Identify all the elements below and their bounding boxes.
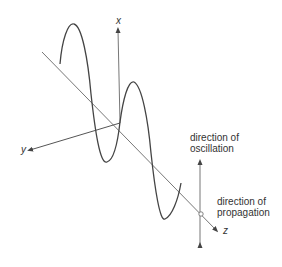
x-axis-label: x <box>116 15 121 26</box>
z-axis-label: z <box>223 225 228 236</box>
propagation-annotation: direction of propagation <box>217 196 270 218</box>
oscillation-line2: oscillation <box>190 143 239 154</box>
wave-diagram: x y z direction of oscillation direction… <box>0 0 282 267</box>
x-axis <box>118 30 120 123</box>
y-axis-label: y <box>21 144 26 155</box>
oscillation-annotation: direction of oscillation <box>190 132 239 154</box>
sine-wave <box>60 24 181 219</box>
y-axis <box>30 123 120 150</box>
intersection-marker <box>199 212 203 216</box>
propagation-line1: direction of <box>217 196 270 207</box>
propagation-line2: propagation <box>217 207 270 218</box>
diagram-graphics <box>0 0 282 267</box>
oscillation-line1: direction of <box>190 132 239 143</box>
